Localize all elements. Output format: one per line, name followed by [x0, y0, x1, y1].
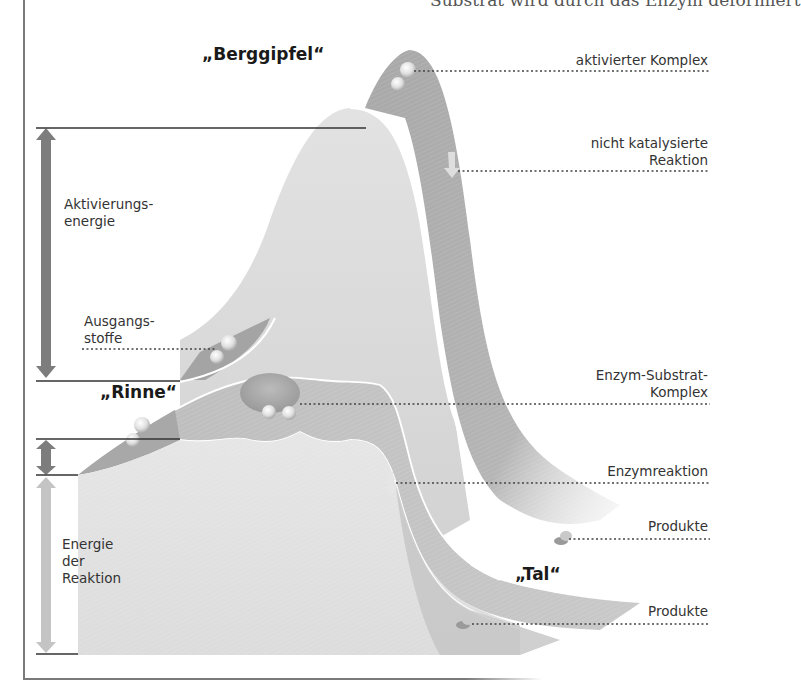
reactants-label: Ausgangs- stoffe: [84, 313, 155, 347]
reaction-energy-arrow-icon: [36, 477, 56, 653]
callout-products-lower: Produkte: [648, 603, 708, 620]
enzyme-activation-arrow-icon: [36, 440, 56, 475]
callout-uncatalyzed-reaction: nicht katalysierte Reaktion: [591, 135, 708, 169]
activation-energy-label: Aktivierungs- energie: [64, 196, 153, 230]
valley-label: „Tal“: [515, 566, 561, 583]
reaction-energy-label: Energie der Reaktion: [62, 536, 121, 587]
callout-products-upper: Produkte: [648, 518, 708, 535]
callout-enzyme-substrate-complex: Enzym-Substrat- Komplex: [596, 367, 708, 401]
callout-enzyme-reaction: Enzymreaktion: [607, 463, 708, 480]
callout-activated-complex: aktivierter Komplex: [576, 52, 708, 69]
activation-energy-arrow-icon: [36, 128, 56, 378]
groove-label: „Rinne“: [100, 384, 177, 401]
peak-label: „Berggipfel“: [202, 46, 324, 63]
